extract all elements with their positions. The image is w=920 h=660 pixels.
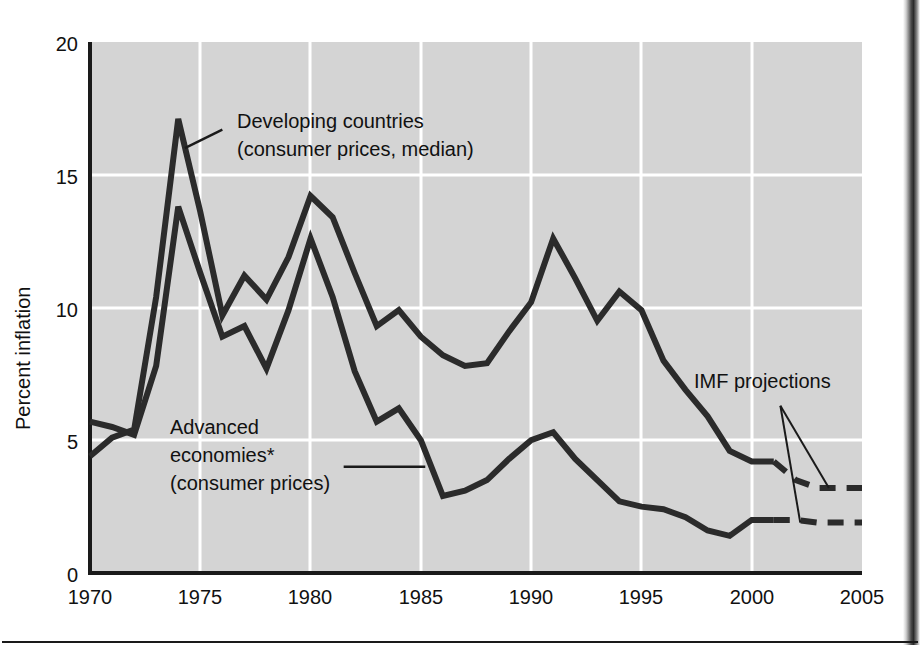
annotation-advanced-economies-line2: economies* bbox=[170, 444, 275, 466]
x-tick-label-1980: 1980 bbox=[288, 586, 333, 608]
annotation-advanced-economies-line3: (consumer prices) bbox=[170, 472, 330, 494]
annotation-developing-countries-line2: (consumer prices, median) bbox=[237, 138, 474, 160]
inflation-line-chart: 20 15 10 5 0 Percent inflation 1970 1975… bbox=[0, 0, 920, 660]
x-tick-label-2000: 2000 bbox=[730, 586, 775, 608]
y-tick-label-0: 0 bbox=[67, 564, 78, 586]
scan-edge-artifact bbox=[903, 0, 920, 645]
annotation-developing-countries-line1: Developing countries bbox=[237, 110, 424, 132]
x-tick-label-1990: 1990 bbox=[509, 586, 554, 608]
y-tick-label-15: 15 bbox=[56, 166, 78, 188]
x-tick-label-2005: 2005 bbox=[840, 586, 885, 608]
y-axis-title: Percent inflation bbox=[12, 287, 34, 430]
x-tick-label-1975: 1975 bbox=[178, 586, 223, 608]
inflation-chart-figure: 20 15 10 5 0 Percent inflation 1970 1975… bbox=[0, 0, 920, 660]
x-tick-label-1985: 1985 bbox=[399, 586, 444, 608]
page-margin bbox=[0, 648, 920, 660]
y-tick-label-5: 5 bbox=[67, 431, 78, 453]
annotation-advanced-economies-line1: Advanced bbox=[170, 416, 259, 438]
bottom-horizontal-rule bbox=[2, 641, 918, 643]
y-tick-label-20: 20 bbox=[56, 33, 78, 55]
x-tick-label-1995: 1995 bbox=[619, 586, 664, 608]
y-tick-label-10: 10 bbox=[56, 299, 78, 321]
annotation-imf-projections: IMF projections bbox=[694, 370, 831, 392]
x-tick-label-1970: 1970 bbox=[68, 586, 113, 608]
